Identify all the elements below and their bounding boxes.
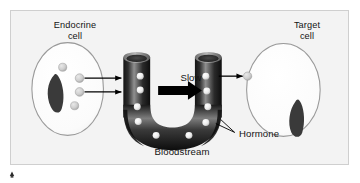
hormone-dot [134, 103, 141, 110]
hormone-dot [204, 103, 211, 110]
hormone-dot [137, 73, 144, 80]
hormone-dot [135, 118, 142, 125]
corner-mark-icon [9, 171, 15, 178]
endocrine-cell-group [32, 43, 104, 136]
vessel-right-bore [198, 55, 218, 62]
vessel-bend [123, 105, 221, 150]
endocrine-vesicle [71, 102, 79, 110]
label-endocrine-cell: Endocrine cell [37, 20, 113, 41]
target-cell-membrane [247, 44, 321, 137]
target-cell-group [243, 44, 320, 137]
endocrine-vesicle [75, 88, 84, 97]
hormone-dot [202, 119, 209, 126]
hormone-dot [153, 132, 160, 139]
label-hormone: Hormone [239, 129, 301, 140]
hormone-dot [185, 132, 192, 139]
label-slow: Slow [163, 73, 219, 84]
label-bloodstream: Bloodstream [133, 147, 231, 158]
blood-vessel-group [123, 52, 221, 150]
endocrine-vesicle [75, 74, 84, 83]
vessel-left-bore [127, 55, 147, 62]
hormone-dot [137, 87, 144, 94]
endocrine-cell-membrane [32, 43, 104, 136]
endocrine-vesicle [59, 63, 67, 71]
hormone-leader-line-1 [221, 120, 235, 133]
label-target-cell: Target cell [273, 20, 341, 41]
illustration-panel: Endocrine cell Target cell Slow Bloodstr… [10, 10, 349, 165]
target-cell-bound-hormone [243, 72, 251, 80]
hormone-dot [203, 88, 210, 95]
figure-root: Endocrine cell Target cell Slow Bloodstr… [0, 0, 360, 183]
